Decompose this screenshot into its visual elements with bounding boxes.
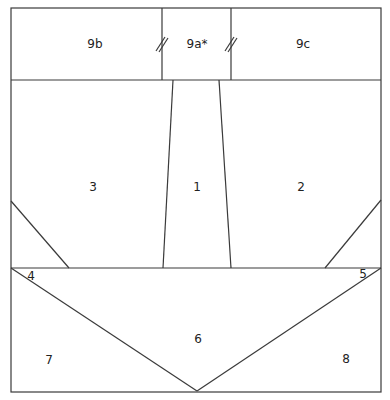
piece-4-diagonal <box>11 201 69 268</box>
label-5: 5 <box>359 267 367 281</box>
label-9b: 9b <box>87 37 102 51</box>
label-1: 1 <box>193 180 201 194</box>
label-6: 6 <box>194 332 202 346</box>
label-7: 7 <box>45 353 53 367</box>
label-2: 2 <box>297 180 305 194</box>
label-4: 4 <box>27 269 35 283</box>
quilt-pattern-diagram: 9b 9a* 9c 3 1 2 4 5 6 7 8 <box>0 0 390 400</box>
piece-6-right-edge <box>197 268 381 391</box>
piece-5-diagonal <box>325 200 381 268</box>
label-9a: 9a* <box>187 37 208 51</box>
label-3: 3 <box>89 180 97 194</box>
label-9c: 9c <box>296 37 310 51</box>
label-8: 8 <box>342 352 350 366</box>
piece-6-left-edge <box>11 268 197 391</box>
piece-1-left-edge <box>163 80 173 268</box>
piece-1-right-edge <box>219 80 231 268</box>
